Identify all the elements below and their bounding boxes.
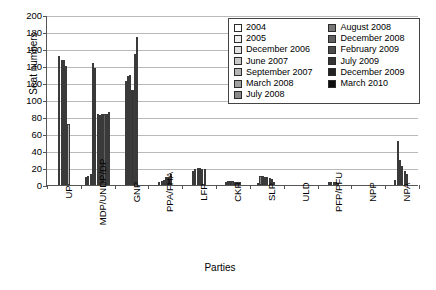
- x-tick-mark: [47, 185, 48, 189]
- x-tick-label: PFP/PFU: [333, 172, 344, 212]
- legend-item: September 2007: [234, 67, 328, 78]
- legend-swatch: [234, 80, 242, 88]
- x-label-cell: GNP: [114, 190, 148, 260]
- x-label-cell: UP: [46, 190, 80, 260]
- legend-item: July 2008: [234, 89, 328, 100]
- x-label-cell: MDP/UNDP/DP: [80, 190, 114, 260]
- legend-swatch: [234, 24, 242, 32]
- y-tick-label: 20: [31, 164, 42, 174]
- legend-swatch: [234, 68, 242, 76]
- x-tick-label: PPA/FHA: [164, 172, 175, 212]
- x-label-cell: NPA: [384, 190, 418, 260]
- x-label-cell: PPA/FHA: [147, 190, 181, 260]
- x-label-cell: CKP: [215, 190, 249, 260]
- legend-swatch: [234, 35, 242, 43]
- legend-item: December 2006: [234, 44, 328, 55]
- x-tick-label: ULD: [300, 182, 311, 201]
- legend-swatch: [328, 80, 336, 88]
- x-tick-mark: [81, 185, 82, 189]
- x-label-cell: PFP/PFU: [317, 190, 351, 260]
- legend-swatch: [328, 24, 336, 32]
- x-tick-label: UP: [63, 185, 74, 198]
- legend-label: December 2009: [340, 68, 404, 77]
- legend-swatch: [328, 35, 336, 43]
- legend-label: June 2007: [246, 57, 288, 66]
- x-label-cell: LFP: [181, 190, 215, 260]
- x-tick-label: MDP/UNDP/DP: [97, 159, 108, 226]
- legend-label: August 2008: [340, 23, 391, 32]
- legend-item: 2005: [234, 33, 328, 44]
- y-tick-label: 40: [31, 147, 42, 157]
- x-tick-label: GNP: [131, 182, 142, 203]
- x-axis-labels: UPMDP/UNDP/DPGNPPPA/FHALFPCKPSLPULDPFP/P…: [46, 190, 418, 260]
- legend-label: 2004: [246, 23, 266, 32]
- x-tick-mark: [250, 185, 251, 189]
- legend-swatch: [234, 57, 242, 65]
- x-tick-mark: [419, 185, 420, 189]
- legend-label: March 2010: [340, 79, 388, 88]
- x-axis-title: Parties: [150, 262, 290, 273]
- legend-item: August 2008: [328, 22, 415, 33]
- x-tick-mark: [284, 185, 285, 189]
- x-tick-mark: [148, 185, 149, 189]
- x-tick-label: CKP: [232, 182, 243, 202]
- x-tick-mark: [216, 185, 217, 189]
- x-tick-label: NPA: [401, 183, 412, 202]
- bar-cluster: [148, 16, 182, 185]
- bar: [108, 112, 110, 185]
- legend-label: February 2009: [340, 45, 399, 54]
- bar-chart: 020406080100120140160180200 Seat numbers…: [0, 0, 436, 290]
- bar: [136, 37, 138, 185]
- legend-label: December 2008: [340, 34, 404, 43]
- legend-label: December 2006: [246, 45, 310, 54]
- bar-cluster: [47, 16, 81, 185]
- legend-item: February 2009: [328, 44, 415, 55]
- x-tick-label: SLP: [266, 183, 277, 201]
- legend-column-1: 20042005December 2006June 2007September …: [234, 22, 328, 100]
- legend-item: December 2008: [328, 33, 415, 44]
- bar: [67, 124, 69, 185]
- legend-item: December 2009: [328, 67, 415, 78]
- legend-label: July 2008: [246, 90, 285, 99]
- x-label-cell: NPP: [350, 190, 384, 260]
- legend-label: March 2008: [246, 79, 294, 88]
- x-tick-mark: [182, 185, 183, 189]
- legend-item: June 2007: [234, 56, 328, 67]
- x-tick-mark: [385, 185, 386, 189]
- legend-swatch: [234, 91, 242, 99]
- x-tick-label: LFP: [198, 183, 209, 200]
- legend-column-2: August 2008December 2008February 2009Jul…: [328, 22, 415, 100]
- legend-label: September 2007: [246, 68, 313, 77]
- bar-cluster: [114, 16, 148, 185]
- legend-swatch: [328, 68, 336, 76]
- legend-item: March 2010: [328, 78, 415, 89]
- legend-item: July 2009: [328, 56, 415, 67]
- legend-item: March 2008: [234, 78, 328, 89]
- y-tick-label: 0: [37, 181, 42, 191]
- x-label-cell: ULD: [283, 190, 317, 260]
- legend: 20042005December 2006June 2007September …: [228, 18, 420, 104]
- x-label-cell: SLP: [249, 190, 283, 260]
- bar-cluster: [182, 16, 216, 185]
- y-tick-label: 60: [31, 130, 42, 140]
- x-tick-mark: [351, 185, 352, 189]
- legend-label: July 2009: [340, 57, 379, 66]
- x-tick-mark: [318, 185, 319, 189]
- legend-swatch: [328, 57, 336, 65]
- legend-label: 2005: [246, 34, 266, 43]
- x-tick-mark: [115, 185, 116, 189]
- y-axis-title: Seat numbers: [28, 9, 39, 119]
- legend-item: 2004: [234, 22, 328, 33]
- legend-swatch: [234, 46, 242, 54]
- x-tick-label: NPP: [367, 182, 378, 202]
- legend-swatch: [328, 46, 336, 54]
